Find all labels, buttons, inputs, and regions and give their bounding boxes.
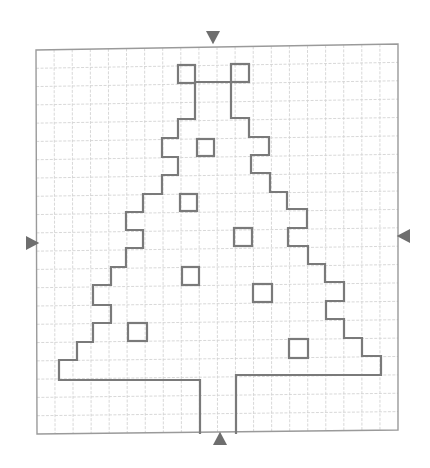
grid-line-vertical bbox=[145, 48, 146, 433]
marker-top-triangle-icon bbox=[206, 31, 220, 44]
tree-outline-left bbox=[59, 83, 200, 434]
grid-line-vertical bbox=[72, 49, 73, 433]
grid-diagram bbox=[0, 0, 430, 468]
tree-top-boxes bbox=[178, 64, 249, 83]
grid-line-vertical bbox=[90, 49, 91, 433]
ornament-square bbox=[197, 139, 214, 156]
grid-line-vertical bbox=[217, 47, 218, 432]
marker-left-triangle-icon bbox=[26, 236, 39, 250]
grid-line-vertical bbox=[181, 48, 182, 433]
ornament-square bbox=[289, 339, 308, 358]
alignment-markers bbox=[26, 31, 410, 445]
grid-line-vertical bbox=[108, 49, 109, 433]
ornament-square bbox=[234, 228, 252, 246]
tree-top-box bbox=[231, 64, 249, 82]
ornament-square bbox=[128, 323, 147, 341]
grid-line-vertical bbox=[54, 50, 55, 434]
grid-line-vertical bbox=[163, 48, 164, 433]
ornament-square bbox=[180, 194, 197, 211]
grid-line-vertical bbox=[199, 47, 200, 432]
ornament-square bbox=[182, 267, 199, 285]
marker-bottom-triangle-icon bbox=[213, 432, 227, 445]
ornament-square bbox=[253, 284, 272, 302]
grid-line-vertical bbox=[127, 49, 128, 434]
